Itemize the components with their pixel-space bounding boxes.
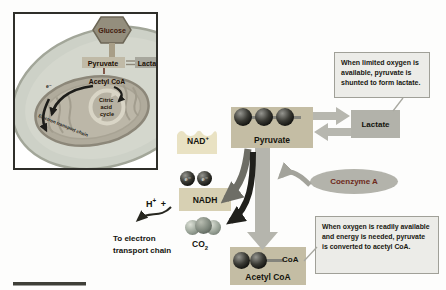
electron-label: e⁻ bbox=[197, 171, 212, 186]
pyruvate-label: Pyruvate bbox=[231, 135, 313, 145]
inset-lactate-label: Lactate bbox=[138, 60, 158, 67]
to-etc-line1: To electron bbox=[113, 233, 171, 245]
co2-label: CO2 bbox=[192, 239, 208, 251]
lactate-callout: When limited oxygen is available, pyruva… bbox=[334, 52, 430, 98]
carbon-sphere bbox=[233, 252, 250, 269]
h-plus-label: H+ + bbox=[146, 197, 166, 209]
to-etc-line2: transport chain bbox=[113, 245, 171, 257]
lactate-label: Lactate bbox=[361, 120, 389, 129]
nad-label: NAD+ bbox=[180, 135, 216, 146]
nadh-box: NADH bbox=[179, 188, 231, 211]
to-etc-label: To electron transport chain bbox=[113, 233, 171, 258]
glucose-arrow bbox=[109, 43, 115, 59]
carbon-sphere bbox=[276, 108, 294, 126]
one-way-label: One way bbox=[258, 167, 267, 201]
glucose-label: Glucose bbox=[98, 27, 126, 34]
carbon-sphere bbox=[195, 217, 212, 234]
acetyl-coa-box: CoA Acetyl CoA bbox=[230, 247, 306, 285]
inset-electron-label: e⁻ bbox=[46, 83, 52, 89]
lactate-box: Lactate bbox=[351, 110, 400, 138]
citric-cycle-label: Citric acid cycle bbox=[99, 97, 115, 117]
carbon-sphere bbox=[234, 108, 252, 126]
electron-sphere: e⁻ bbox=[180, 171, 195, 186]
electron-sphere: e⁻ bbox=[197, 171, 212, 186]
coenzyme-a-arrow bbox=[281, 172, 310, 185]
inset-cell-panel: Glucose Pyruvate Lactate Acetyl CoA e⁻ E… bbox=[13, 12, 158, 170]
carbon-sphere bbox=[250, 252, 267, 269]
pyruvate-box: Pyruvate bbox=[231, 107, 313, 148]
acetyl-coa-label: Acetyl CoA bbox=[230, 272, 306, 282]
coa-label: CoA bbox=[282, 255, 298, 264]
inset-acetyl-label: Acetyl CoA bbox=[89, 78, 125, 86]
figure-canvas: Glucose Pyruvate Lactate Acetyl CoA e⁻ E… bbox=[0, 0, 446, 290]
inset-cell-diagram: Glucose Pyruvate Lactate Acetyl CoA e⁻ E… bbox=[15, 14, 158, 170]
lactate-to-pyruvate-arrow bbox=[314, 123, 351, 141]
coenzyme-a-oval: Coenzyme A bbox=[310, 169, 398, 194]
bottom-page-bar bbox=[13, 282, 86, 286]
coenzyme-a-label: Coenzyme A bbox=[330, 177, 378, 186]
co2-release-arrow bbox=[231, 152, 253, 221]
carbon-sphere bbox=[255, 108, 273, 126]
acetyl-callout: When oxygen is readily available and ene… bbox=[315, 216, 439, 274]
pyruvate-to-lactate-arrow bbox=[313, 107, 350, 125]
nadh-label: NADH bbox=[193, 195, 218, 205]
electron-label: e⁻ bbox=[180, 171, 195, 186]
inset-pyruvate-label: Pyruvate bbox=[88, 59, 118, 68]
